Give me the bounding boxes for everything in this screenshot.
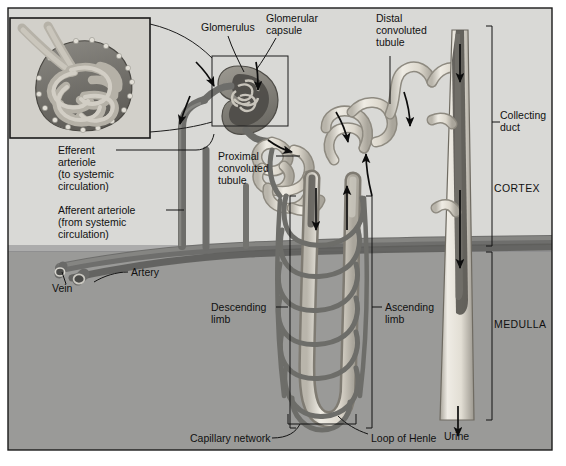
label-efferent-line1: Efferent — [58, 144, 95, 156]
label-ascending-line1: Ascending — [385, 301, 434, 313]
diagram-canvas: Glomerulus Glomerular capsule Distal con… — [0, 0, 566, 466]
label-afferent-line2: (from systemic — [58, 216, 126, 228]
label-capillary-network: Capillary network — [190, 432, 271, 444]
label-urine: Urine — [444, 430, 469, 442]
label-distal-tubule-line3: tubule — [376, 36, 405, 48]
label-efferent-line4: circulation) — [58, 180, 109, 192]
label-proximal-line1: Proximal — [218, 150, 259, 162]
label-afferent-line1: Afferent arteriole — [58, 204, 136, 216]
label-medulla: MEDULLA — [494, 318, 546, 330]
label-loop-of-henle: Loop of Henle — [371, 432, 437, 444]
nephron-diagram-figure: Glomerulus Glomerular capsule Distal con… — [0, 0, 566, 466]
label-distal-tubule-line1: Distal — [376, 12, 402, 24]
label-distal-tubule-line2: convoluted — [376, 24, 427, 36]
artery-vessel — [74, 274, 85, 284]
label-artery: Artery — [131, 266, 160, 278]
label-efferent-line3: (to systemic — [58, 168, 114, 180]
label-glomerular-capsule-line1: Glomerular — [266, 12, 318, 24]
label-collecting-duct-line1: Collecting — [500, 109, 546, 121]
label-afferent-line3: circulation) — [58, 228, 109, 240]
label-descending-line1: Descending — [211, 301, 267, 313]
label-cortex: CORTEX — [494, 182, 540, 194]
label-proximal-line3: tubule — [218, 174, 247, 186]
label-proximal-line2: convoluted — [218, 162, 269, 174]
label-collecting-duct-line2: duct — [500, 121, 520, 133]
label-vein: Vein — [52, 282, 73, 294]
label-glomerular-capsule-line2: capsule — [266, 24, 302, 36]
label-glomerulus: Glomerulus — [201, 21, 255, 33]
label-ascending-line2: limb — [385, 313, 404, 325]
label-descending-line2: limb — [211, 313, 230, 325]
label-efferent-line2: arteriole — [58, 156, 96, 168]
glomerulus-inset — [10, 18, 150, 138]
